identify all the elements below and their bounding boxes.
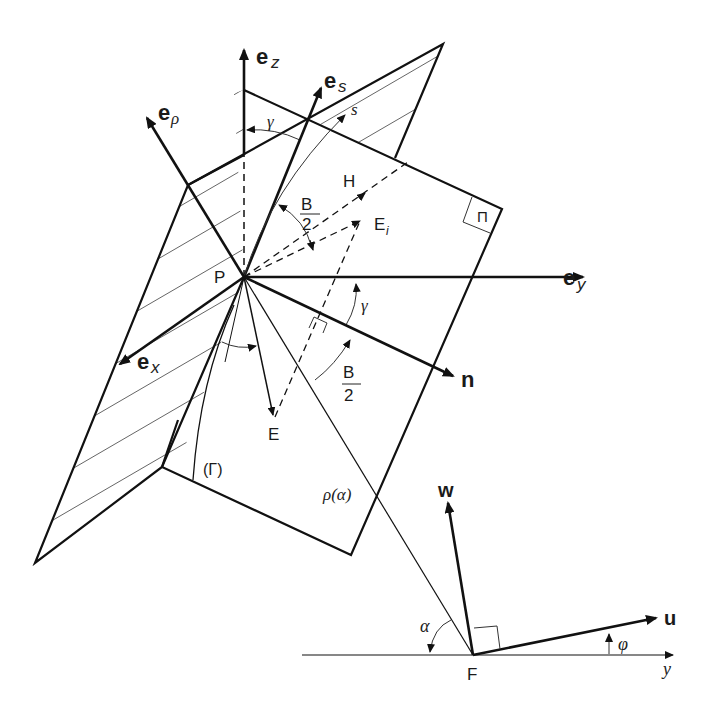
- plane-pi-label: Π: [477, 208, 488, 225]
- half-b-bottom-numerator: B: [343, 363, 354, 382]
- w-label: w: [437, 479, 454, 501]
- vector-e: E: [244, 277, 279, 444]
- n-label: n: [461, 367, 474, 392]
- e-x-label: e: [137, 349, 149, 374]
- angle-gamma-curve: [222, 342, 256, 347]
- angle-half-b-bottom: B 2: [315, 340, 361, 405]
- e-z-label: e: [256, 44, 268, 69]
- rho-alpha-label: ρ(α): [322, 485, 352, 504]
- angle-gamma-right: γ: [346, 284, 369, 325]
- angle-alpha: α: [420, 616, 451, 652]
- e-rho-subscript: ρ: [170, 109, 179, 128]
- curve-s: s: [244, 100, 358, 277]
- curve-gamma-label: (Γ): [203, 461, 222, 478]
- alpha-label: α: [420, 616, 430, 636]
- point-e-label: E: [268, 425, 279, 444]
- hatched-tangent-plane: [0, 0, 500, 660]
- e-y-subscript: y: [576, 275, 587, 294]
- point-h-label: H: [343, 172, 355, 191]
- e-z-subscript: z: [270, 53, 280, 72]
- gamma-top-label: γ: [267, 112, 275, 131]
- right-angle-marker-f: [474, 626, 500, 649]
- point-p-label: P: [214, 268, 225, 287]
- e-s-label: e: [324, 68, 336, 93]
- half-b-top-denominator: 2: [302, 215, 311, 234]
- vector-e-y: e y: [244, 265, 587, 294]
- axis-y-label: y: [661, 659, 671, 679]
- e-x-subscript: x: [150, 358, 160, 377]
- reflector-geometry-diagram: Π e z γ e s s e ρ H E i: [0, 0, 709, 726]
- vector-e-z: e z: [244, 44, 280, 277]
- curve-gamma: (Γ): [193, 305, 234, 480]
- curve-s-label: s: [351, 100, 358, 119]
- axis-y: y: [302, 655, 673, 679]
- vector-w: w: [437, 479, 473, 655]
- e-rho-label: e: [158, 100, 170, 125]
- angle-phi: φ: [609, 634, 628, 654]
- half-b-top-numerator: B: [301, 195, 312, 214]
- e-s-subscript: s: [338, 77, 347, 96]
- gamma-right-label: γ: [361, 296, 369, 315]
- angle-half-b-top: B 2: [279, 195, 320, 250]
- angle-gamma-top: γ: [247, 112, 300, 140]
- e-y-label: e: [563, 265, 575, 290]
- half-b-bottom-denominator: 2: [344, 386, 353, 405]
- point-e-i-subscript: i: [386, 224, 389, 238]
- line-rho-alpha: ρ(α): [244, 277, 473, 655]
- vector-u: u: [473, 607, 676, 655]
- point-e-i-label: E: [374, 215, 385, 234]
- point-f-label: F: [467, 665, 477, 684]
- phi-label: φ: [618, 634, 628, 654]
- u-label: u: [664, 607, 676, 629]
